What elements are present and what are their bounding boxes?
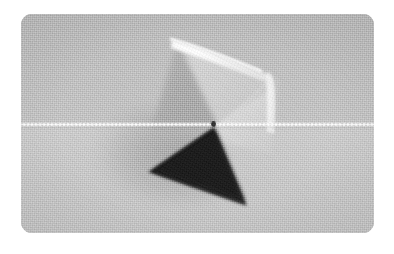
thread-shadow	[21, 126, 374, 128]
figure-stage	[0, 0, 394, 254]
thread-texture	[21, 123, 374, 126]
photograph	[21, 14, 374, 233]
